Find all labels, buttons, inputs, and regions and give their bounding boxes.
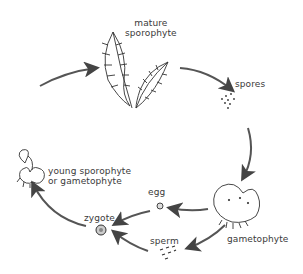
- arrow-spores-to-gametophyte: [243, 128, 251, 178]
- arrow-sperm-to-zygote: [114, 232, 148, 251]
- zygote-label: zygote: [84, 213, 115, 223]
- arrow-gametophyte-to-egg: [170, 208, 208, 210]
- young-sporophyte-label-line1: young sporophyte: [48, 166, 131, 176]
- mature-sporophyte-label-line1: mature: [125, 18, 177, 28]
- gametophyte-label: gametophyte: [227, 234, 288, 244]
- gametophyte-icon: [214, 184, 260, 229]
- arrow-zygote-to-young: [33, 184, 86, 226]
- young-sporophyte-icon: [17, 150, 44, 188]
- young-sporophyte-label-line2: or gametophyte: [48, 176, 131, 186]
- spores-label: spores: [235, 79, 265, 89]
- mature-sporophyte-label-line2: sporophyte: [125, 28, 177, 38]
- spores-icon: [221, 93, 235, 109]
- arrow-egg-to-zygote: [115, 211, 150, 224]
- sperm-icon: [160, 246, 176, 259]
- arrow-mature-to-spores: [180, 68, 232, 90]
- sperm-label: sperm: [150, 236, 179, 246]
- arrow-gametophyte-to-sperm: [188, 225, 225, 248]
- egg-label: egg: [148, 187, 165, 197]
- egg-icon: [157, 203, 163, 209]
- zygote-icon: [96, 225, 106, 235]
- arrow-young-to-mature: [40, 68, 96, 86]
- mature-sporophyte-label: mature sporophyte: [125, 18, 177, 38]
- young-sporophyte-label: young sporophyte or gametophyte: [48, 166, 131, 186]
- fern-life-cycle-diagram: [0, 0, 303, 274]
- mature-sporophyte-icon: [102, 32, 168, 108]
